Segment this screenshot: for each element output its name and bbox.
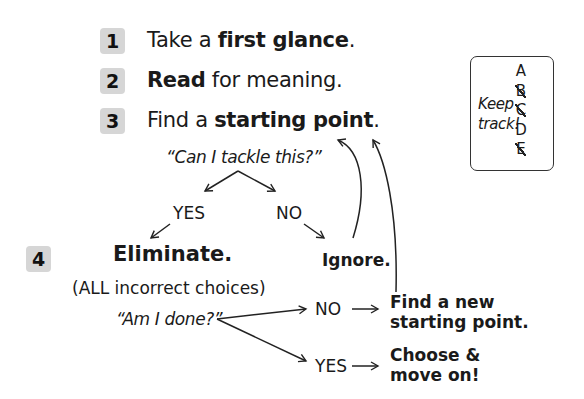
choice-letter-e-crossed: E (509, 140, 533, 160)
choice-letter-a: A (509, 62, 533, 82)
answer-choice-letters: A B C D E (509, 62, 533, 160)
step-3-text: Find a starting point. (147, 107, 380, 133)
arrow-done-to-no (217, 309, 306, 319)
step-1-text: Take a first glance. (147, 27, 355, 53)
branch2-no-label: NO (315, 299, 341, 319)
step-3-badge: 3 (100, 108, 125, 134)
choice-letter-c-crossed: C (509, 101, 533, 121)
arrow-ignore-to-start (338, 140, 361, 238)
step-4-text: Eliminate. (113, 242, 232, 266)
arrow-to-no (238, 171, 275, 191)
step-2-text: Read for meaning. (147, 67, 342, 93)
question-tackle: “Can I tackle this?” (166, 147, 321, 167)
arrow-to-yes (205, 171, 238, 191)
question-done: “Am I done?” (116, 309, 222, 329)
ignore-label: Ignore. (322, 250, 391, 270)
step-1-badge: 1 (100, 28, 125, 54)
choice-letter-d: D (509, 121, 533, 141)
arrow-no-to-ignore (304, 224, 324, 238)
branch1-no-label: NO (276, 203, 302, 223)
choose-and-move-on: Choose & move on! (390, 345, 480, 385)
branch2-yes-label: YES (315, 356, 347, 376)
step-4-badge: 4 (26, 246, 51, 272)
step-2-badge: 2 (100, 68, 125, 94)
find-new-starting-point: Find a new starting point. (390, 292, 529, 332)
arrow-done-to-yes (217, 319, 306, 361)
choice-letter-b-crossed: B (509, 82, 533, 102)
eliminate-note: (ALL incorrect choices) (72, 278, 266, 298)
arrow-yes-to-eliminate (151, 224, 170, 238)
branch1-yes-label: YES (173, 203, 205, 223)
